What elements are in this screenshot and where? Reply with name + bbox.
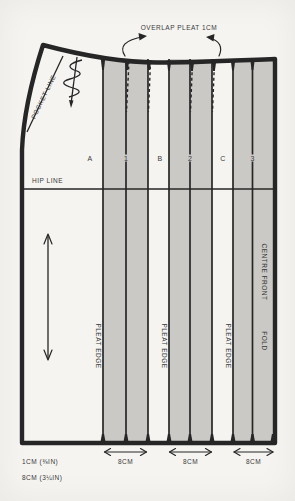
measurement-label-1: 8CM bbox=[118, 459, 133, 466]
section-label-b: B bbox=[158, 155, 163, 162]
skirt-pattern-diagram: OVERLAP PLEAT 1CM POCKET LINE HIP LINE A… bbox=[0, 0, 295, 501]
overlap-arrow-right-icon bbox=[206, 34, 221, 56]
measurement-label-3: 8CM bbox=[246, 459, 261, 466]
legend-line-1: 1CM (⅜IN) bbox=[22, 459, 58, 466]
measure-arrow-3 bbox=[234, 449, 273, 456]
centre-front-label: CENTRE FRONT bbox=[261, 244, 268, 301]
fold-label: FOLD bbox=[261, 331, 268, 350]
pleat-edge-label-3: PLEAT EDGE bbox=[224, 323, 231, 368]
panel-number-3: 3 bbox=[248, 155, 256, 162]
section-label-c: C bbox=[220, 155, 225, 162]
section-label-a: A bbox=[88, 155, 93, 162]
panel-number-1: 1 bbox=[122, 155, 130, 162]
pleat-edge-label-1: PLEAT EDGE bbox=[94, 323, 101, 368]
pleat-edge-label-2: PLEAT EDGE bbox=[160, 323, 167, 368]
measurement-label-2: 8CM bbox=[183, 459, 198, 466]
measure-arrow-2 bbox=[170, 449, 212, 456]
overlap-arrow-left-icon bbox=[123, 33, 147, 56]
hip-line-label: HIP LINE bbox=[32, 178, 63, 185]
measure-arrow-1 bbox=[105, 449, 147, 456]
overlap-note: OVERLAP PLEAT 1CM bbox=[141, 25, 217, 32]
pattern-drawing bbox=[0, 0, 295, 501]
grain-arrow-icon bbox=[44, 234, 52, 360]
panel-number-2: 2 bbox=[186, 155, 194, 162]
pocket-coil-icon bbox=[64, 57, 82, 108]
legend-line-2: 8CM (3¼IN) bbox=[22, 475, 62, 482]
